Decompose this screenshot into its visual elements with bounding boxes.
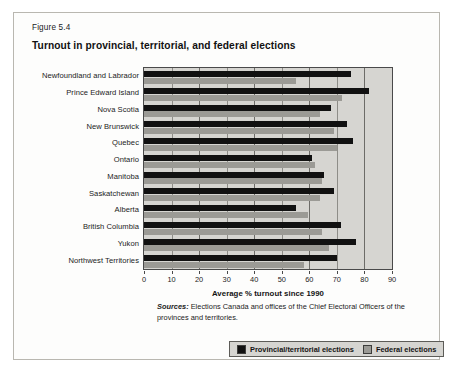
y-axis-label: Nova Scotia <box>98 105 140 114</box>
square-swatch-dark <box>237 345 246 354</box>
figure-title: Turnout in provincial, territorial, and … <box>32 40 296 51</box>
source-text: Elections Canada and offices of the Chie… <box>157 302 405 322</box>
figure-number: Figure 5.4 <box>32 23 70 32</box>
bar-provincial <box>144 188 334 194</box>
bar-provincial <box>144 222 341 228</box>
y-axis-label: Yukon <box>118 239 139 248</box>
x-tick-label: 20 <box>195 275 203 284</box>
chart-legend: Provincial/territorial electionsFederal … <box>229 341 444 357</box>
bar-federal <box>144 145 337 151</box>
bar-provincial <box>144 138 353 144</box>
bar-group <box>144 186 392 203</box>
y-axis-label: British Columbia <box>83 222 139 231</box>
bar-group <box>144 203 392 220</box>
y-axis-label: Manitoba <box>107 172 139 181</box>
y-axis-label: New Brunswick <box>86 122 139 131</box>
y-axis-label: Saskatchewan <box>89 189 139 198</box>
bar-provincial <box>144 71 351 77</box>
x-tick-mark <box>364 271 365 274</box>
bar-group <box>144 170 392 187</box>
x-tick-mark <box>199 271 200 274</box>
y-axis-label: Prince Edward Island <box>66 88 139 97</box>
x-tick-label: 70 <box>333 275 341 284</box>
x-tick-mark <box>309 271 310 274</box>
x-tick-label: 90 <box>388 275 396 284</box>
x-tick-mark <box>337 271 338 274</box>
x-axis-ticks: 0102030405060708090 <box>143 271 393 287</box>
chart-plot-area <box>143 67 393 270</box>
bar-group <box>144 237 392 254</box>
bar-federal <box>144 212 308 218</box>
y-axis-label: Northwest Territories <box>68 256 139 265</box>
bar-provincial <box>144 88 369 94</box>
bar-group <box>144 86 392 103</box>
y-axis-label: Alberta <box>115 205 139 214</box>
source-note: Sources: Elections Canada and offices of… <box>157 301 409 323</box>
bar-provincial <box>144 205 296 211</box>
bar-federal <box>144 178 322 184</box>
bar-provincial <box>144 172 324 178</box>
bar-group <box>144 103 392 120</box>
bar-provincial <box>144 255 337 261</box>
x-tick-label: 80 <box>360 275 368 284</box>
bar-provincial <box>144 121 347 127</box>
x-tick-mark <box>282 271 283 274</box>
y-axis-label: Ontario <box>114 155 139 164</box>
source-label: Sources: <box>157 302 189 311</box>
square-swatch-grey <box>363 345 372 354</box>
y-axis-label: Newfoundland and Labrador <box>42 71 139 80</box>
bar-federal <box>144 78 296 84</box>
bar-group <box>144 153 392 170</box>
x-tick-label: 30 <box>223 275 231 284</box>
x-tick-mark <box>254 271 255 274</box>
x-tick-label: 50 <box>278 275 286 284</box>
legend-item: Federal elections <box>363 345 436 354</box>
bar-federal <box>144 245 329 251</box>
y-axis-label: Quebec <box>112 138 139 147</box>
bar-group <box>144 253 392 270</box>
bar-federal <box>144 111 320 117</box>
x-tick-mark <box>172 271 173 274</box>
bar-group <box>144 220 392 237</box>
gridline-90 <box>392 68 393 269</box>
figure-card: Figure 5.4 Turnout in provincial, territ… <box>13 12 440 360</box>
bar-federal <box>144 95 342 101</box>
x-tick-label: 0 <box>142 275 146 284</box>
bar-group <box>144 119 392 136</box>
bar-federal <box>144 162 315 168</box>
x-tick-label: 60 <box>305 275 313 284</box>
x-axis-title: Average % turnout since 1990 <box>143 289 393 298</box>
bar-federal <box>144 262 304 268</box>
bar-group <box>144 136 392 153</box>
legend-label: Federal elections <box>376 345 436 354</box>
x-tick-label: 10 <box>167 275 175 284</box>
bar-federal <box>144 128 334 134</box>
bar-provincial <box>144 105 331 111</box>
legend-item: Provincial/territorial elections <box>237 345 354 354</box>
bar-group <box>144 69 392 86</box>
x-tick-label: 40 <box>250 275 258 284</box>
bar-federal <box>144 229 322 235</box>
bar-provincial <box>144 239 356 245</box>
bar-federal <box>144 195 320 201</box>
x-tick-mark <box>144 271 145 274</box>
x-tick-mark <box>392 271 393 274</box>
x-tick-mark <box>227 271 228 274</box>
y-axis-labels: Newfoundland and LabradorPrince Edward I… <box>19 67 139 270</box>
legend-label: Provincial/territorial elections <box>250 345 354 354</box>
bar-provincial <box>144 155 312 161</box>
chart-plot-wrapper: Newfoundland and LabradorPrince Edward I… <box>143 67 393 270</box>
